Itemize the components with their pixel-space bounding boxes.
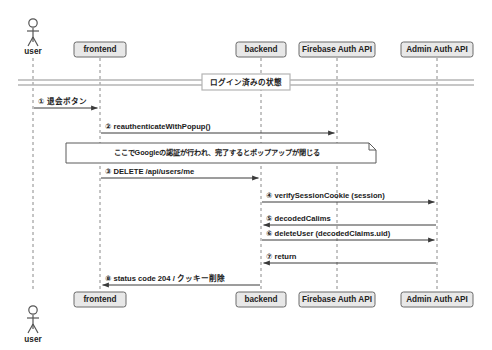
participant-label: Firebase Auth API bbox=[302, 295, 372, 304]
message-6: ⑥ deleteUser (decodedClaims.uid) bbox=[262, 229, 435, 240]
actor-label-user: user bbox=[24, 47, 42, 56]
message-label: ⑦ return bbox=[266, 252, 297, 261]
message-7: ⑦ return bbox=[264, 252, 437, 263]
actor-head-icon bbox=[29, 306, 37, 314]
actor-leg-left-icon bbox=[28, 37, 33, 46]
sequence-diagram-svg: ログイン済みの状態 userfrontendbackendFirebase Au… bbox=[0, 0, 492, 350]
participant-admin[interactable]: Admin Auth API bbox=[401, 42, 473, 57]
message-label: ② reauthenticateWithPopup() bbox=[105, 122, 211, 131]
divider-label: ログイン済みの状態 bbox=[210, 77, 282, 87]
actor-leg-right-icon bbox=[33, 37, 38, 46]
actor-user: user bbox=[24, 19, 42, 56]
state-divider-group: ログイン済みの状態 bbox=[18, 74, 474, 90]
participant-headers-group: userfrontendbackendFirebase Auth APIAdmi… bbox=[24, 19, 473, 57]
message-label: ⑧ status code 204 / クッキー削除 bbox=[105, 273, 225, 283]
message-4: ④ verifySessionCookie (session) bbox=[262, 191, 435, 202]
message-5: ⑤ decodedCalims bbox=[264, 214, 437, 225]
participant-label: frontend bbox=[83, 295, 116, 304]
sequence-diagram-canvas: ログイン済みの状態 userfrontendbackendFirebase Au… bbox=[0, 0, 492, 350]
message-1: ① 退会ボタン bbox=[34, 96, 98, 108]
participant-label: Firebase Auth API bbox=[302, 45, 372, 54]
participant-footers-group: userfrontendbackendFirebase Auth APIAdmi… bbox=[24, 292, 473, 344]
lifelines-group bbox=[33, 58, 437, 292]
message-label: ④ verifySessionCookie (session) bbox=[266, 191, 385, 200]
message-8: ⑧ status code 204 / クッキー削除 bbox=[103, 273, 261, 285]
note-label: ここでGoogleの認証が行われ、完了するとポップアップが閉じる bbox=[114, 148, 321, 157]
participant-label: Admin Auth API bbox=[406, 295, 468, 304]
message-label: ③ DELETE /api/users/me bbox=[105, 167, 194, 176]
participant-backend[interactable]: backend bbox=[236, 292, 286, 307]
message-3: ③ DELETE /api/users/me bbox=[101, 167, 259, 178]
actor-leg-left-icon bbox=[28, 324, 33, 333]
actor-label-user: user bbox=[24, 335, 42, 344]
participant-backend[interactable]: backend bbox=[236, 42, 286, 57]
participant-firebase[interactable]: Firebase Auth API bbox=[299, 292, 375, 307]
actor-head-icon bbox=[29, 19, 37, 27]
actor-user: user bbox=[24, 306, 42, 344]
participant-label: frontend bbox=[83, 45, 116, 54]
participant-frontend[interactable]: frontend bbox=[74, 42, 126, 57]
message-label: ⑥ deleteUser (decodedClaims.uid) bbox=[266, 229, 391, 238]
participant-firebase[interactable]: Firebase Auth API bbox=[299, 42, 375, 57]
participant-frontend[interactable]: frontend bbox=[74, 292, 126, 307]
participant-label: backend bbox=[244, 295, 277, 304]
participant-label: Admin Auth API bbox=[406, 45, 468, 54]
note-group: ここでGoogleの認証が行われ、完了するとポップアップが閉じる bbox=[66, 143, 376, 163]
message-label: ① 退会ボタン bbox=[38, 96, 87, 106]
message-label: ⑤ decodedCalims bbox=[266, 214, 331, 223]
participant-admin[interactable]: Admin Auth API bbox=[401, 292, 473, 307]
messages-group: ① 退会ボタン② reauthenticateWithPopup()③ DELE… bbox=[34, 96, 436, 285]
message-2: ② reauthenticateWithPopup() bbox=[101, 122, 335, 133]
actor-leg-right-icon bbox=[33, 324, 38, 333]
participant-label: backend bbox=[244, 45, 277, 54]
